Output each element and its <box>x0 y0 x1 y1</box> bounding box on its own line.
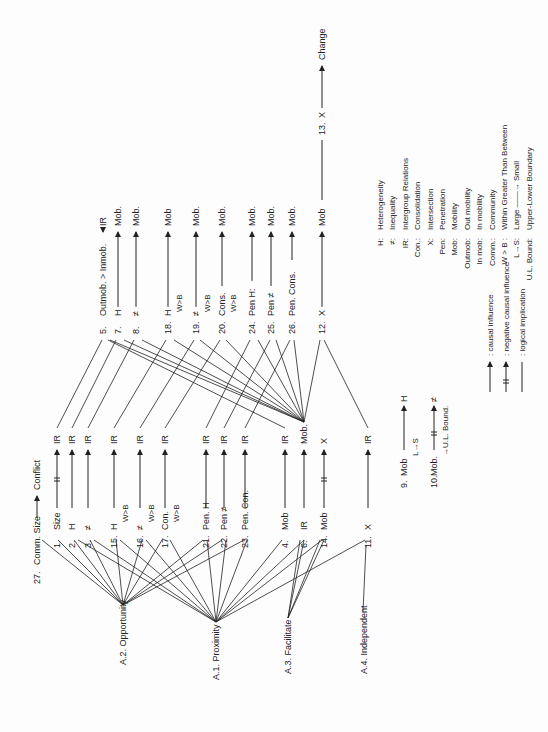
proposition-19: 19.≠W>BMob. <box>191 206 212 334</box>
abbr-meaning: Penetration <box>438 189 447 230</box>
prop-to: Mob <box>163 208 173 226</box>
abbr-item: ≠:Inequality <box>388 196 397 245</box>
prop-to: Mob. <box>131 206 141 226</box>
abbr-meaning: In mobility <box>475 194 484 230</box>
prop-number: 11. <box>363 536 373 548</box>
abbr-item: IR:Intergroup Relations <box>401 158 410 248</box>
abbr-key: H: <box>376 238 385 246</box>
prop-from: H <box>67 524 77 531</box>
abbr-key: Comm.: <box>488 238 497 266</box>
prop-to: H <box>399 396 409 403</box>
prop-from: Mob <box>319 512 329 530</box>
prop-number: 9. <box>399 480 409 488</box>
abbr-meaning: Large ——→ Small <box>512 161 521 230</box>
proposition-20: 20.Cons.W>BMob. <box>217 206 238 334</box>
proposition-4: 4.MobIR <box>280 434 290 548</box>
abbr-meaning: Within Greater Than Between <box>500 125 509 230</box>
abbr-item: H:Heterogeneity <box>376 180 385 246</box>
prop-to: Mob. <box>191 206 201 226</box>
prop-from: H <box>163 310 173 317</box>
key-logical: : logical implication <box>518 289 527 356</box>
proposition-8: 8.≠Mob. <box>131 206 141 334</box>
abbr-meaning: Out mobility <box>463 188 472 230</box>
prop-number: 24. <box>247 321 257 334</box>
svg-text:27.: 27. <box>32 571 42 584</box>
prop-qualifier: L→S <box>411 438 420 456</box>
svg-text:Conflict: Conflict <box>32 459 42 490</box>
assumption-a3: A.3. Facilitate <box>283 619 293 674</box>
abbr-meaning: Heterogeneity <box>376 180 385 230</box>
key-negative: : negative causal influence <box>502 261 511 356</box>
proposition-3: 3.≠IR <box>83 434 93 548</box>
prop-number: 4. <box>280 540 290 548</box>
abbr-item: Comm.:Community <box>488 190 497 266</box>
abbr-item: U.L. Bound:Upper-Lower Boundary <box>525 147 534 280</box>
abbr-item: X:Intersection <box>426 189 435 246</box>
prop-from: Mob <box>399 458 409 476</box>
prop-from: H <box>113 310 123 317</box>
prop-to: ≠ <box>429 397 439 402</box>
assumptions: A.2. OpportunityA.1. ProximityA.3. Facil… <box>118 599 369 680</box>
proposition-7: 7.HMob. <box>113 206 123 334</box>
proposition-18: 18.HW>BMob <box>163 208 184 334</box>
prop-number: 18. <box>163 321 173 334</box>
proposition-24: 24.Pen H:Mob. <box>247 206 257 334</box>
prop-to: X <box>319 438 329 444</box>
prop-number: 1. <box>52 540 62 548</box>
prop-from: Pen. Cons. <box>287 271 297 316</box>
prop-number: 8. <box>131 326 141 334</box>
upper-propositions: 5.Outmob. > Inmob.IR7.HMob.8.≠Mob.18.HW>… <box>98 206 327 334</box>
prop-qualifier: W>B <box>121 504 130 522</box>
proposition-15: 15.HW>BIR <box>109 434 130 548</box>
abbr-key: X: <box>426 238 435 246</box>
abbr-meaning: Consolidation <box>413 182 422 230</box>
side-propositions: 9.MobL→SH10.Mob.→U.L. Bound.≠ <box>399 396 450 489</box>
prop-to: IR <box>52 434 62 444</box>
prop-from: Pen ≠ <box>266 292 276 316</box>
prop-number: 26. <box>287 321 297 334</box>
prop-to: Mob. <box>113 206 123 226</box>
proposition-25: 25.Pen ≠Mob. <box>266 206 276 334</box>
abbr-key: Mob: <box>450 238 459 256</box>
prop-number: 5. <box>98 326 108 334</box>
prop-from: X <box>317 310 327 316</box>
prop-qualifier: W>B <box>229 294 238 312</box>
prop-from: Outmob. > Inmob. <box>98 244 108 316</box>
abbr-key: Con.: <box>413 238 422 257</box>
prop-qualifier: W>B <box>175 294 184 312</box>
abbr-item: Outmob:Out mobility <box>463 188 472 269</box>
svg-text:13.: 13. <box>317 122 327 135</box>
prop-from: ≠ <box>135 525 145 530</box>
prop-to: Mob. <box>247 206 257 226</box>
arrow-key: : causal influence: negative causal infl… <box>486 261 527 392</box>
prop-number: 12. <box>317 321 327 334</box>
prop-number: 10. <box>429 475 439 488</box>
abbr-item: In mob:In mobility <box>475 194 484 265</box>
prop-to: Mob. <box>266 206 276 226</box>
prop-number: 22. <box>219 535 229 548</box>
prop-to: Mob. <box>287 206 297 226</box>
abbr-key: In mob: <box>475 238 484 265</box>
assumption-a4: A.4. Independent <box>359 605 369 674</box>
assumption-a1: A.1. Proximity <box>211 624 221 680</box>
prop-to: IR <box>201 434 211 444</box>
svg-text:Comm. Size: Comm. Size <box>32 516 42 565</box>
causal-diagram: 27. Comm. Size Conflict 1.SizeIR2.HIR3.≠… <box>0 0 548 732</box>
prop-qualifier: W>B <box>147 504 156 522</box>
abbr-item: Mob:Mobility <box>450 203 459 256</box>
prop-number: 25. <box>266 321 276 334</box>
prop-from: Mob <box>280 512 290 530</box>
prop-number: 7. <box>113 326 123 334</box>
prop-from: X <box>363 524 373 530</box>
prop-number: 19. <box>191 321 201 334</box>
proposition-1: 1.SizeIR <box>52 434 62 548</box>
prop-from: ≠ <box>131 311 141 316</box>
abbr-key: IR: <box>401 238 410 248</box>
prop-qualifier: W>B <box>203 294 212 312</box>
abbr-item: Con.:Consolidation <box>413 182 422 258</box>
prop-to: IR <box>160 434 170 444</box>
key-causal: : causal influence <box>486 294 495 356</box>
prop-from: Cons. <box>217 292 227 316</box>
proposition-23: 23.Pen. Con.IR <box>240 434 250 548</box>
lower-propositions: 1.SizeIR2.HIR3.≠IR15.HW>BIR16.≠W>BIR17.C… <box>52 424 373 548</box>
